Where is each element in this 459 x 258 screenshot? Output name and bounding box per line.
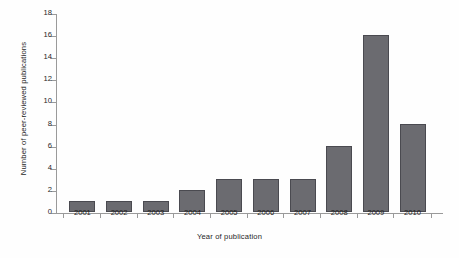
x-axis-tick-label: 2009 <box>356 208 396 217</box>
y-axis-tick-label: 18 <box>44 8 52 17</box>
y-axis-tick: 12 <box>56 80 57 81</box>
bar <box>326 146 352 212</box>
y-axis-tick: 2 <box>56 191 57 192</box>
y-axis-line <box>56 14 57 213</box>
y-axis-tick: 16 <box>56 36 57 37</box>
bar <box>400 124 426 212</box>
plot-area: 024681012141618 <box>56 14 443 213</box>
y-axis-tick: 0 <box>56 213 57 214</box>
x-axis-tick-label: 2001 <box>62 208 102 217</box>
y-axis-tick-label: 6 <box>48 141 52 150</box>
y-axis-tick: 8 <box>56 125 57 126</box>
bar-chart-figure: Number of peer-reviewed publications 024… <box>0 0 459 258</box>
y-axis-title: Number of peer-reviewed publications <box>19 14 28 204</box>
y-axis-tick: 6 <box>56 147 57 148</box>
y-axis-tick-label: 14 <box>44 52 52 61</box>
y-axis-tick-label: 12 <box>44 74 52 83</box>
x-axis-title: Year of publication <box>0 232 459 241</box>
bar <box>363 35 389 212</box>
y-axis-tick-label: 0 <box>48 207 52 216</box>
y-axis-tick: 18 <box>56 14 57 15</box>
x-axis-tick-label: 2007 <box>283 208 323 217</box>
y-axis-tick-label: 10 <box>44 96 52 105</box>
y-axis-tick-label: 16 <box>44 30 52 39</box>
x-axis-tick-label: 2004 <box>172 208 212 217</box>
x-axis-tick-label: 2003 <box>136 208 176 217</box>
y-axis-tick-label: 4 <box>48 163 52 172</box>
x-axis-tick-label: 2005 <box>209 208 249 217</box>
x-axis-tick-label: 2010 <box>393 208 433 217</box>
y-axis-tick: 4 <box>56 169 57 170</box>
x-axis-tick-label: 2002 <box>99 208 139 217</box>
y-axis-tick: 14 <box>56 58 57 59</box>
x-axis-tick-label: 2006 <box>246 208 286 217</box>
x-axis-tick-label: 2008 <box>319 208 359 217</box>
y-axis-tick-label: 2 <box>48 185 52 194</box>
y-axis-tick: 10 <box>56 102 57 103</box>
y-axis-tick-label: 8 <box>48 119 52 128</box>
